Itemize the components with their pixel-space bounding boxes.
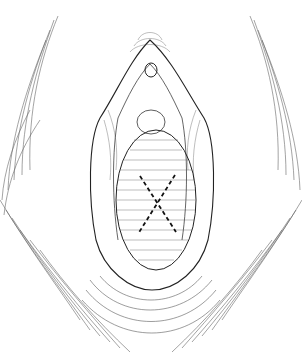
dashed-x-marking <box>138 175 176 234</box>
outer-hatching-left <box>0 16 130 352</box>
labia-outline <box>90 40 213 290</box>
illustration-canvas <box>0 0 302 356</box>
anatomical-illustration <box>0 0 302 356</box>
lower-hatching <box>82 276 220 333</box>
fold-hatching <box>104 33 200 181</box>
outer-hatching-right <box>172 16 302 352</box>
